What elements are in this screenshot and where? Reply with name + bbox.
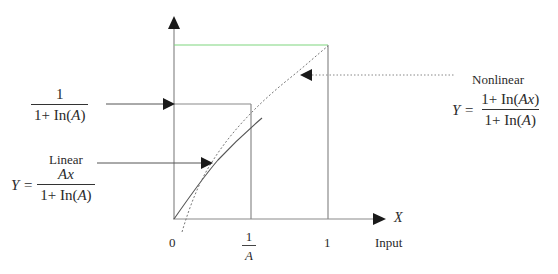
tick-inv-a: 1 A xyxy=(242,229,256,263)
linear-den-prefix: 1+ In( xyxy=(40,187,77,203)
linear-curve xyxy=(174,118,262,219)
nonlinear-num-suffix: ) xyxy=(534,91,539,107)
nonlinear-den-suffix: ) xyxy=(531,112,536,128)
level-den-prefix: 1+ In( xyxy=(34,107,71,123)
x-axis-caption: Input xyxy=(375,235,402,251)
y-axis-arrow-icon xyxy=(168,16,180,29)
linear-arrow-icon xyxy=(201,157,213,169)
level-arrow-icon xyxy=(163,98,175,110)
linear-den-var: A xyxy=(77,187,86,203)
nonlinear-lhs: Y = xyxy=(452,102,474,119)
nonlinear-fraction: 1+ In(Ax) 1+ In(A) xyxy=(478,91,542,129)
tick-inv-a-num: 1 xyxy=(243,229,256,245)
nonlinear-title: Nonlinear xyxy=(472,72,524,88)
linear-lhs: Y = xyxy=(11,177,33,194)
nonlinear-denominator: 1+ In(A) xyxy=(482,109,539,129)
level-den-suffix: ) xyxy=(80,107,85,123)
linear-equation: Y = Ax 1+ In(A) xyxy=(11,166,95,204)
linear-fraction: Ax 1+ In(A) xyxy=(37,166,94,204)
nonlinear-den-prefix: 1+ In( xyxy=(485,112,522,128)
nonlinear-equation: Y = 1+ In(Ax) 1+ In(A) xyxy=(452,91,542,129)
nonlinear-den-var: A xyxy=(522,112,531,128)
nonlinear-num-var: Ax xyxy=(518,91,534,107)
diagram-canvas xyxy=(0,0,558,274)
level-label: 1 1+ In(A) xyxy=(31,86,88,124)
linear-numerator: Ax xyxy=(55,166,77,184)
tick-one: 1 xyxy=(324,235,331,251)
level-den-var: A xyxy=(71,107,80,123)
tick-zero: 0 xyxy=(169,235,176,251)
nonlinear-numerator: 1+ In(Ax) xyxy=(478,91,542,109)
tick-inv-a-den: A xyxy=(242,245,256,263)
nonlinear-num-prefix: 1+ In( xyxy=(481,91,518,107)
x-axis-arrow-icon xyxy=(373,213,386,225)
linear-den-suffix: ) xyxy=(87,187,92,203)
x-axis-label: X xyxy=(394,210,403,226)
linear-denominator: 1+ In(A) xyxy=(37,184,94,204)
nonlinear-arrow-icon xyxy=(300,69,312,81)
level-denominator: 1+ In(A) xyxy=(31,104,88,124)
level-numerator: 1 xyxy=(53,86,67,104)
